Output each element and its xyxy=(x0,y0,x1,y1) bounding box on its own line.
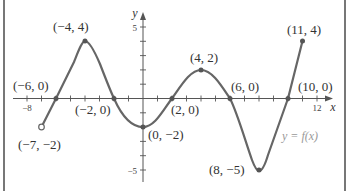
x-axis-label: x xyxy=(329,100,336,114)
point-marker xyxy=(141,125,146,130)
point-label: (0, −2) xyxy=(148,127,184,142)
point-label: (6, 0) xyxy=(231,79,259,94)
point-marker xyxy=(83,39,88,44)
y-axis-arrow-icon xyxy=(140,12,146,20)
y-axis: 5 −5 y xyxy=(127,6,146,182)
point-label: (−7, −2) xyxy=(18,137,61,152)
point-marker xyxy=(257,168,262,173)
point-marker xyxy=(112,96,117,101)
y-tick-label-max: 5 xyxy=(133,23,138,33)
point-marker xyxy=(300,39,305,44)
point-marker xyxy=(286,96,291,101)
point-label: (11, 4) xyxy=(287,22,321,37)
point-label: (−4, 4) xyxy=(53,19,89,34)
point-marker xyxy=(199,68,204,73)
x-tick-label-max: 12 xyxy=(313,103,322,113)
function-label: y = f(x) xyxy=(281,129,318,143)
function-graph: −8 12 x 5 −5 y xyxy=(0,0,350,191)
open-point-marker xyxy=(39,124,45,130)
point-marker xyxy=(54,96,59,101)
point-label: (2, 0) xyxy=(171,102,199,117)
point-marker xyxy=(170,96,175,101)
point-label: (8, −5) xyxy=(209,162,245,177)
point-label: (10, 0) xyxy=(298,79,333,94)
y-tick-label-min: −5 xyxy=(127,166,137,176)
x-tick-label-min: −8 xyxy=(22,103,32,113)
point-label: (−6, 0) xyxy=(13,78,49,93)
point-label: (−2, 0) xyxy=(75,102,111,117)
point-label: (4, 2) xyxy=(190,50,218,65)
point-marker xyxy=(228,96,233,101)
y-axis-label: y xyxy=(131,6,138,20)
chart-frame: −8 12 x 5 −5 y xyxy=(0,0,350,191)
